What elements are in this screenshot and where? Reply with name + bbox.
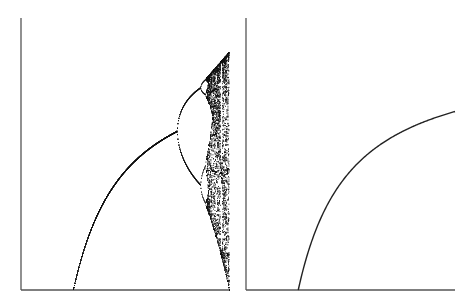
bifurcation-points [73,53,230,290]
figure [0,0,471,305]
fixed-point-panel [246,18,455,290]
fixed-point-curve [298,112,455,291]
bifurcation-diagram-panel [21,18,230,290]
bifurcation-scatter [73,53,230,290]
